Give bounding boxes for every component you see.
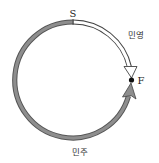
minyoung-label: 민영 — [128, 30, 144, 40]
start-label: S — [70, 8, 77, 19]
finish-label: F — [138, 75, 145, 86]
minju-label: 민주 — [72, 147, 88, 157]
minyoung-arrowhead-icon — [124, 67, 137, 79]
circular-track-diagram: S F 민영 민주 — [0, 0, 159, 163]
finish-dot-icon — [129, 77, 134, 82]
